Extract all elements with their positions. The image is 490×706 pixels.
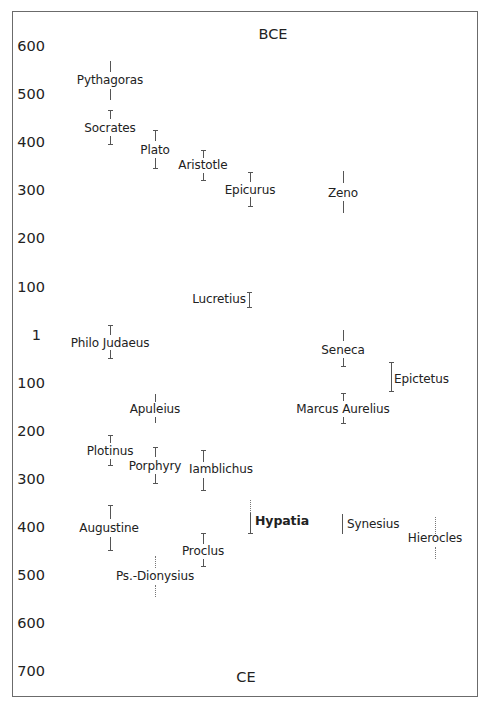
philosopher-epictetus: Epictetus xyxy=(394,372,449,386)
lifespan-bar-plato-top xyxy=(155,130,156,141)
timeline-frame xyxy=(12,11,478,697)
era-label-ce: CE xyxy=(236,669,255,685)
philosopher-pythagoras: Pythagoras xyxy=(77,73,144,87)
philosopher-plotinus: Plotinus xyxy=(87,444,134,458)
philosopher-augustine: Augustine xyxy=(79,521,138,535)
lifespan-bar-augustine-top xyxy=(110,505,111,519)
lifespan-bar-plotinus-top xyxy=(110,435,111,443)
lifespan-bar-philo-bottom xyxy=(110,350,111,359)
tick-100-bce: 100 xyxy=(0,279,45,295)
lifespan-bar-iamblichus-bottom xyxy=(203,478,204,491)
lifespan-bar-hypatia-dotted xyxy=(250,500,251,513)
lifespan-bar-marcus-bottom xyxy=(343,417,344,424)
lifespan-bar-pythagoras-top xyxy=(110,61,111,72)
lifespan-bar-plato-bottom xyxy=(155,158,156,169)
philosopher-hierocles: Hierocles xyxy=(408,531,462,545)
lifespan-bar-augustine-bottom xyxy=(110,537,111,551)
philosopher-aristotle: Aristotle xyxy=(178,158,227,172)
lifespan-bar-plotinus-bottom xyxy=(110,459,111,466)
lifespan-bar-proclus-top xyxy=(203,533,204,544)
philosopher-philo-judaeus: Philo Judaeus xyxy=(71,336,150,350)
tick-600-bce: 600 xyxy=(0,38,45,54)
philosopher-iamblichus: Iamblichus xyxy=(189,462,253,476)
lifespan-bar-socrates-top xyxy=(110,110,111,119)
philosopher-ps-dionysius: Ps.-Dionysius xyxy=(116,569,194,583)
lifespan-bar-hierocles-bottom xyxy=(435,547,436,559)
lifespan-bar-marcus-top xyxy=(343,393,344,401)
tick-400-bce: 400 xyxy=(0,134,45,150)
philosopher-proclus: Proclus xyxy=(182,544,224,558)
lifespan-bar-epicurus-bottom xyxy=(250,197,251,207)
philosopher-socrates: Socrates xyxy=(84,121,135,135)
lifespan-bar-pythagoras-bottom xyxy=(110,89,111,100)
lifespan-bar-zeno-top xyxy=(343,171,344,183)
lifespan-bar-dionysius-top xyxy=(155,556,156,568)
philosopher-epicurus: Epicurus xyxy=(225,183,276,197)
tick-700-ce: 700 xyxy=(0,663,45,679)
tick-500-bce: 500 xyxy=(0,86,45,102)
lifespan-bar-zeno-bottom xyxy=(343,201,344,213)
lifespan-bar-seneca-bottom xyxy=(343,358,344,367)
tick-200-bce: 200 xyxy=(0,230,45,246)
lifespan-bar-synesius xyxy=(342,514,343,534)
lifespan-bar-seneca-top xyxy=(343,330,344,341)
tick-300-bce: 300 xyxy=(0,182,45,198)
lifespan-bar-proclus-bottom xyxy=(203,559,204,567)
tick-400-ce: 400 xyxy=(0,519,45,535)
philosopher-lucretius: Lucretius xyxy=(192,292,246,306)
philosopher-porphyry: Porphyry xyxy=(129,459,182,473)
tick-300-ce: 300 xyxy=(0,471,45,487)
tick-1: 1 xyxy=(0,327,41,343)
tick-600-ce: 600 xyxy=(0,615,45,631)
philosopher-hypatia: Hypatia xyxy=(255,513,309,528)
lifespan-bar-aristotle-bottom xyxy=(203,173,204,181)
philosopher-synesius: Synesius xyxy=(347,517,399,531)
philosopher-marcus-aurelius: Marcus Aurelius xyxy=(296,402,390,416)
lifespan-bar-porphyry-bottom xyxy=(155,474,156,484)
lifespan-bar-socrates-bottom xyxy=(110,136,111,145)
era-label-bce: BCE xyxy=(259,26,288,42)
philosopher-plato: Plato xyxy=(140,143,169,157)
philosopher-seneca: Seneca xyxy=(321,343,364,357)
tick-200-ce: 200 xyxy=(0,423,45,439)
tick-500-ce: 500 xyxy=(0,567,45,583)
lifespan-bar-philo-top xyxy=(110,325,111,335)
lifespan-bar-aristotle-top xyxy=(203,150,204,158)
tick-100-ce: 100 xyxy=(0,375,45,391)
lifespan-bar-apuleius-top xyxy=(155,394,156,402)
lifespan-bar-epicurus-top xyxy=(250,172,251,182)
lifespan-bar-apuleius-bottom xyxy=(155,417,156,423)
lifespan-bar-lucretius xyxy=(249,292,250,308)
lifespan-bar-epictetus xyxy=(391,362,392,392)
lifespan-bar-porphyry-top xyxy=(155,447,156,457)
lifespan-bar-hypatia-solid xyxy=(250,513,251,534)
lifespan-bar-dionysius-bottom xyxy=(155,585,156,597)
philosopher-zeno: Zeno xyxy=(328,186,358,200)
lifespan-bar-iamblichus-top xyxy=(203,450,204,462)
philosopher-apuleius: Apuleius xyxy=(130,402,181,416)
